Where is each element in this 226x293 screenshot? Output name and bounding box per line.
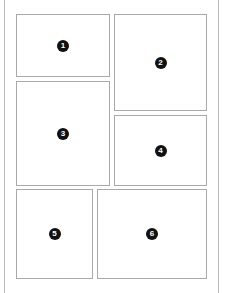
- page-right-edge: [218, 0, 219, 293]
- panel-1: 1: [16, 14, 110, 77]
- page-left-edge: [4, 0, 5, 293]
- panel-number-badge: 1: [57, 40, 69, 52]
- panel-number-badge: 3: [57, 128, 69, 140]
- panel-2: 2: [114, 14, 207, 111]
- panel-number-badge: 4: [155, 145, 167, 157]
- panel-number-badge: 6: [146, 228, 158, 240]
- panel-5: 5: [16, 189, 93, 279]
- panel-3: 3: [16, 81, 110, 186]
- panel-4: 4: [114, 115, 207, 186]
- panel-6: 6: [97, 189, 207, 279]
- panel-number-badge: 5: [49, 228, 61, 240]
- panel-number-badge: 2: [155, 57, 167, 69]
